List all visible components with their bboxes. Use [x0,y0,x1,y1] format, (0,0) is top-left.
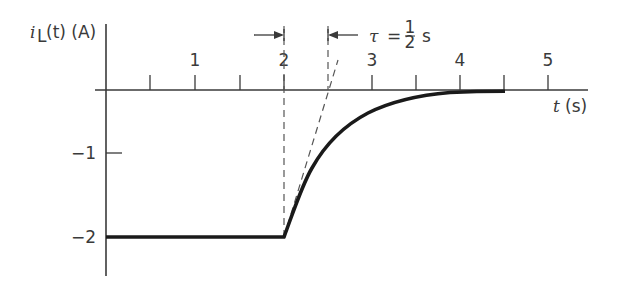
svg-text:i: i [30,22,35,42]
x-tick-label-5: 5 [543,50,554,70]
x-tick-label-1: 1 [190,50,201,70]
svg-text:t: t [553,96,560,116]
svg-text:τ: τ [369,26,379,46]
current-curve [106,91,505,237]
svg-text:(s): (s) [565,96,587,116]
svg-text:=: = [387,26,401,46]
tau-annotation: τ = 1 2 s [369,17,431,52]
y-axis-label: i L (t) (A) [30,22,96,46]
svg-text:(t) (A): (t) (A) [46,22,96,42]
x-ticks [150,75,548,90]
tau-dimension-arrows [254,29,358,41]
x-tick-label-4: 4 [455,50,466,70]
y-tick-label-minus2: −2 [71,227,96,247]
svg-text:s: s [422,26,431,46]
x-tick-label-3: 3 [367,50,378,70]
chart: i L (t) (A) 1 2 3 4 5 t (s) −1 −2 [0,0,622,286]
y-tick-label-minus1: −1 [71,143,96,163]
svg-text:2: 2 [405,32,416,52]
x-axis-label: t (s) [553,96,587,116]
